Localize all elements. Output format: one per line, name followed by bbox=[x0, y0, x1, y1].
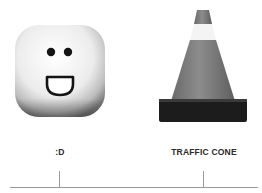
face-mouth bbox=[47, 77, 73, 95]
item-label-face: :D bbox=[55, 147, 64, 157]
timeline-axis bbox=[10, 187, 258, 188]
smiling-face-block-icon bbox=[14, 24, 106, 118]
traffic-cone-icon bbox=[157, 8, 249, 122]
item-label-traffic-cone: TRAFFIC CONE bbox=[171, 147, 237, 157]
timeline-tick-face bbox=[59, 171, 60, 188]
timeline-tick-traffic-cone bbox=[203, 171, 204, 188]
cone-base bbox=[159, 99, 247, 122]
